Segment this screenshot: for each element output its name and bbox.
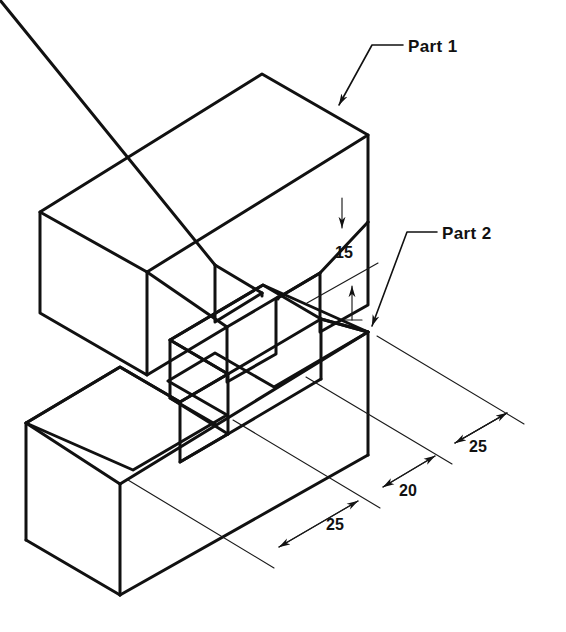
extension-line-rear <box>377 336 524 424</box>
part2-lower-block <box>26 285 368 595</box>
extension-line-front <box>128 480 274 568</box>
part1-tenon-notch-helper <box>0 0 215 265</box>
part1-tenon-notch-top-edge <box>215 265 262 293</box>
part2-label: Part 2 <box>442 224 492 243</box>
part1-label: Part 1 <box>408 37 458 56</box>
dimension-20-text: 20 <box>399 482 417 499</box>
part2-front-top-right-edge <box>120 332 368 484</box>
part1-leader-group: Part 1 <box>339 37 458 105</box>
dimension-15-text: 15 <box>335 244 353 261</box>
part1-leader-line <box>339 45 403 105</box>
extension-line-mid-lower <box>233 420 380 508</box>
part2-top-face <box>26 285 368 470</box>
part2-leader-group: Part 2 <box>372 224 492 326</box>
part2-front-bottom-left-edge <box>26 540 120 595</box>
dimension-25-right-text: 25 <box>469 438 487 455</box>
drawing-canvas: 15 25 20 25 <box>0 0 566 632</box>
dim-25-left-arrow-low <box>279 501 358 547</box>
isometric-drawing: 15 25 20 25 <box>0 0 566 632</box>
part1-step-lower-edge <box>276 273 320 299</box>
part2-leader-line <box>372 232 437 326</box>
extension-line-mid-upper <box>306 377 452 464</box>
part1-tenon-inner-notch <box>215 265 262 322</box>
part1-left-end-face <box>40 212 147 375</box>
part1-top-face <box>40 74 368 272</box>
part2-front-top-left-edge <box>26 423 120 484</box>
dimension-25-left-text: 25 <box>326 516 344 533</box>
